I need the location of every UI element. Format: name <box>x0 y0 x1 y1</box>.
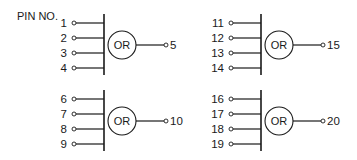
or-gate-pinout-diagram: PIN NO. 1234OR511121314OR156789OR1016171… <box>0 0 357 160</box>
input-pin-label: 1 <box>61 17 67 29</box>
input-pin-label: 17 <box>211 108 224 120</box>
input-pin-label: 12 <box>211 32 224 44</box>
input-terminal-icon <box>72 127 76 131</box>
input-pin-label: 7 <box>61 108 67 120</box>
output-terminal-icon <box>321 119 325 123</box>
or-gate-block: 11121314OR15 <box>211 14 340 75</box>
output-terminal-icon <box>321 43 325 47</box>
input-pin-label: 18 <box>211 123 224 135</box>
input-terminal-icon <box>72 51 76 55</box>
output-pin-label: 10 <box>170 115 183 127</box>
or-gate-label: OR <box>271 39 288 51</box>
or-gate-block: 16171819OR20 <box>211 90 340 151</box>
input-terminal-icon <box>229 36 233 40</box>
or-gate-label: OR <box>114 39 131 51</box>
or-gate-block: 1234OR5 <box>61 14 177 75</box>
or-gate-block: 6789OR10 <box>61 90 183 151</box>
or-gate-label: OR <box>114 115 131 127</box>
input-pin-label: 2 <box>61 32 67 44</box>
pin-no-heading: PIN NO. <box>17 10 58 22</box>
input-terminal-icon <box>229 21 233 25</box>
input-terminal-icon <box>229 66 233 70</box>
output-pin-label: 5 <box>170 39 176 51</box>
input-terminal-icon <box>229 127 233 131</box>
input-pin-label: 11 <box>212 17 224 29</box>
input-terminal-icon <box>229 97 233 101</box>
input-terminal-icon <box>229 112 233 116</box>
input-terminal-icon <box>72 36 76 40</box>
input-terminal-icon <box>229 51 233 55</box>
input-terminal-icon <box>72 97 76 101</box>
input-terminal-icon <box>72 21 76 25</box>
output-pin-label: 15 <box>327 39 340 51</box>
input-pin-label: 3 <box>61 47 67 59</box>
gates-layer: 1234OR511121314OR156789OR1016171819OR20 <box>61 14 340 151</box>
input-pin-label: 16 <box>211 93 224 105</box>
input-pin-label: 13 <box>211 47 224 59</box>
output-terminal-icon <box>164 119 168 123</box>
output-pin-label: 20 <box>327 115 340 127</box>
input-terminal-icon <box>72 112 76 116</box>
input-pin-label: 8 <box>61 123 67 135</box>
input-pin-label: 19 <box>211 138 224 150</box>
input-terminal-icon <box>72 142 76 146</box>
input-pin-label: 4 <box>61 62 68 74</box>
input-pin-label: 9 <box>61 138 67 150</box>
input-pin-label: 14 <box>211 62 224 74</box>
input-pin-label: 6 <box>61 93 67 105</box>
output-terminal-icon <box>164 43 168 47</box>
input-terminal-icon <box>229 142 233 146</box>
input-terminal-icon <box>72 66 76 70</box>
or-gate-label: OR <box>271 115 288 127</box>
